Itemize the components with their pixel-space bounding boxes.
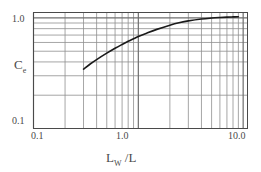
log-log-plot — [0, 0, 261, 172]
grid-major-horizontal — [34, 18, 248, 129]
x-tick-label-2: 10.0 — [228, 130, 246, 141]
y-axis-label-subscript: e — [23, 66, 27, 75]
grid-minor-horizontal — [34, 23, 248, 95]
grid-minor-vertical — [65, 13, 238, 129]
x-axis-label-tail: /L — [122, 150, 137, 165]
y-axis-label-main: C — [14, 57, 23, 72]
x-axis-label: LW /L — [106, 150, 136, 168]
chart-figure: Ce LW /L 1.0 0.1 0.1 1.0 10.0 — [0, 0, 261, 172]
plot-frame — [34, 13, 248, 129]
x-tick-label-1: 1.0 — [116, 130, 129, 141]
x-axis-label-main: L — [106, 150, 114, 165]
y-tick-label-top: 1.0 — [12, 13, 25, 24]
x-axis-label-subscript: W — [114, 159, 122, 168]
y-axis-label: Ce — [14, 57, 26, 75]
y-tick-label-bottom: 0.1 — [12, 115, 25, 126]
x-tick-label-0: 0.1 — [31, 130, 44, 141]
